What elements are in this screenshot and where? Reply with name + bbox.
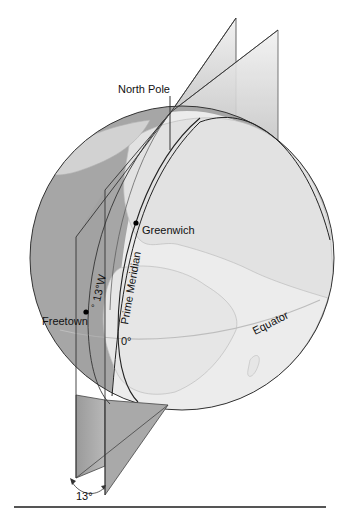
globe-diagram: North Pole Greenwich Freetown 13°W ° Pri… — [0, 0, 342, 513]
greenwich-dot — [133, 220, 138, 225]
zero-degrees-label: 0° — [121, 335, 132, 347]
freetown-dot — [83, 309, 88, 314]
greenwich-label: Greenwich — [142, 224, 195, 236]
angle-arrowhead-left — [70, 478, 76, 485]
bottom-rule — [14, 506, 326, 508]
angle-label: 13° — [76, 490, 93, 502]
north-pole-label: North Pole — [118, 83, 170, 95]
meridian-plane-lower — [76, 395, 168, 495]
degree-mark: ° — [91, 303, 95, 313]
freetown-label: Freetown — [42, 315, 88, 327]
